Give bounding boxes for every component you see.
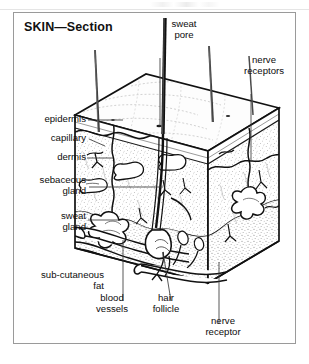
scan-artifact: [150, 2, 220, 7]
label-sweat-pore: sweat pore: [160, 18, 208, 40]
scan-edge-line: [0, 9, 309, 10]
label-hair-follicle: hair follicle: [142, 292, 190, 314]
label-sweat-gland: sweat gland: [14, 210, 86, 232]
sweat-pore-opening: [156, 125, 161, 127]
label-sub-cutaneous-fat: sub-cutaneous fat: [18, 269, 104, 291]
label-nerve-receptor: nerve receptor: [196, 315, 250, 337]
label-capillary: capillary: [14, 132, 86, 143]
label-sebaceous-gland: sebaceous gland: [6, 174, 86, 196]
label-epidermis: epidermis: [14, 113, 86, 124]
page-title: SKIN—Section: [24, 20, 113, 34]
label-dermis: dermis: [14, 151, 86, 162]
label-nerve-receptors: nerve receptors: [232, 54, 296, 76]
skin-section-figure: SKIN—Section sweat pore nerve receptors …: [0, 0, 309, 364]
label-blood-vessels: blood vessels: [86, 292, 138, 314]
